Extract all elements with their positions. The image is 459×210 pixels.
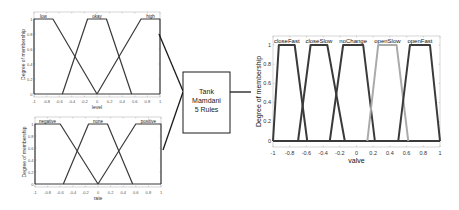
x-tick-label: 0.2 bbox=[369, 150, 377, 156]
plot-frame bbox=[35, 117, 161, 187]
x-tick-label: -0.2 bbox=[81, 99, 89, 104]
x-tick-label: 0.4 bbox=[119, 99, 125, 104]
y-tick-label: 0.8 bbox=[28, 134, 34, 139]
y-tick-label: 0.2 bbox=[27, 77, 33, 82]
y-tick-label: 0 bbox=[31, 182, 34, 187]
mf-label-openFast: openFast bbox=[407, 38, 432, 44]
x-tick-label: -0.2 bbox=[82, 190, 90, 195]
mf-label-negative: negative bbox=[39, 119, 57, 124]
x-tick-label: 0.4 bbox=[120, 190, 126, 195]
x-tick-label: 0.6 bbox=[132, 99, 138, 104]
x-tick-label: -0.8 bbox=[285, 150, 294, 156]
x-tick-label: 0.2 bbox=[107, 99, 113, 104]
mf-label-noChange: noChange bbox=[339, 38, 367, 44]
x-tick-label: 0.8 bbox=[145, 99, 151, 104]
y-tick-label: 0 bbox=[268, 138, 271, 144]
x-tick-label: 0.6 bbox=[133, 190, 139, 195]
mf-label-okay: okay bbox=[92, 14, 102, 19]
x-tick-label: -1 bbox=[271, 150, 276, 156]
input-level-plot: -1-0.8-0.6-0.4-0.200.20.40.60.8100.20.40… bbox=[20, 12, 162, 110]
system-box-line1: Tank bbox=[199, 88, 214, 95]
y-axis-label: Degree of membership bbox=[255, 56, 263, 127]
y-tick-label: 0.6 bbox=[263, 80, 271, 86]
x-tick-label: 0.8 bbox=[146, 190, 152, 195]
x-axis-label: rate bbox=[94, 195, 103, 201]
y-tick-label: 0.8 bbox=[27, 32, 33, 37]
plot-frame bbox=[273, 36, 440, 147]
mf-label-none: none bbox=[93, 119, 104, 124]
mf-label-closeFast: closeFast bbox=[274, 38, 300, 44]
plot-frame bbox=[34, 12, 160, 97]
x-tick-label: 0.6 bbox=[403, 150, 411, 156]
fuzzy-system-diagram: -1-0.8-0.6-0.4-0.200.20.40.60.8100.20.40… bbox=[0, 0, 459, 210]
x-tick-label: 1 bbox=[438, 150, 441, 156]
x-tick-label: -0.4 bbox=[68, 99, 76, 104]
x-tick-label: 0 bbox=[355, 150, 358, 156]
mf-none bbox=[63, 124, 132, 184]
x-tick-label: -0.6 bbox=[302, 150, 311, 156]
x-tick-label: -0.4 bbox=[69, 190, 77, 195]
y-tick-label: 0.6 bbox=[28, 146, 34, 151]
mf-label-positive: positive bbox=[141, 119, 157, 124]
x-tick-label: 0.4 bbox=[386, 150, 394, 156]
input-rate-plot: -1-0.8-0.6-0.4-0.200.20.40.60.8100.20.40… bbox=[21, 117, 163, 201]
mf-openFast bbox=[398, 45, 440, 141]
system-box-line3: 5 Rules bbox=[195, 106, 219, 113]
x-tick-label: 1 bbox=[160, 190, 163, 195]
x-tick-label: -0.8 bbox=[43, 99, 51, 104]
x-tick-label: 0.2 bbox=[108, 190, 114, 195]
x-tick-label: -0.2 bbox=[335, 150, 344, 156]
mf-label-high: high bbox=[146, 14, 155, 19]
x-axis-label: valve bbox=[348, 157, 364, 164]
y-tick-label: 1 bbox=[268, 42, 271, 48]
connector-rate bbox=[163, 92, 183, 150]
x-tick-label: -0.4 bbox=[318, 150, 327, 156]
x-tick-label: -1 bbox=[32, 99, 36, 104]
x-tick-label: -0.6 bbox=[57, 190, 65, 195]
y-tick-label: 0.2 bbox=[28, 170, 34, 175]
mf-label-closeSlow: closeSlow bbox=[305, 38, 333, 44]
y-tick-label: 0.8 bbox=[263, 61, 271, 67]
y-tick-label: 1 bbox=[30, 17, 33, 22]
x-tick-label: -0.8 bbox=[44, 190, 52, 195]
y-tick-label: 0.2 bbox=[263, 118, 271, 124]
y-tick-label: 0.4 bbox=[28, 158, 34, 163]
y-tick-label: 0.4 bbox=[263, 99, 271, 105]
mf-label-openSlow: openSlow bbox=[374, 38, 401, 44]
y-tick-label: 1 bbox=[31, 122, 34, 127]
mf-okay bbox=[62, 19, 131, 94]
y-tick-label: 0 bbox=[30, 92, 33, 97]
x-tick-label: -1 bbox=[33, 190, 37, 195]
system-box-line2: Mamdani bbox=[192, 97, 221, 104]
x-axis-label: level bbox=[92, 104, 102, 110]
mf-closeFast bbox=[273, 45, 307, 141]
connector-level bbox=[159, 34, 183, 91]
y-tick-label: 0.4 bbox=[27, 62, 33, 67]
x-tick-label: 1 bbox=[159, 99, 162, 104]
x-tick-label: -0.6 bbox=[56, 99, 64, 104]
output-valve-plot: -1-0.8-0.6-0.4-0.200.20.40.60.8100.20.40… bbox=[255, 36, 442, 164]
y-tick-label: 0.6 bbox=[27, 47, 33, 52]
x-tick-label: 0.8 bbox=[419, 150, 427, 156]
mf-label-low: low bbox=[40, 14, 48, 19]
y-axis-label: Degree of membership bbox=[21, 126, 27, 177]
y-axis-label: Degree of membership bbox=[20, 29, 26, 80]
